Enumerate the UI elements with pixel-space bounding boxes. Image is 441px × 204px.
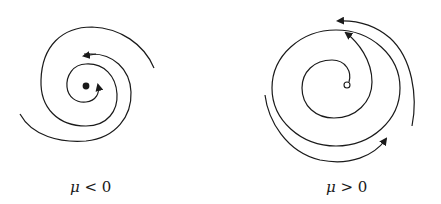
left-outer-trajectory-b bbox=[41, 27, 154, 126]
relation-text: < 0 bbox=[80, 178, 112, 196]
stable-fixed-point-icon bbox=[83, 83, 90, 90]
label-mu-negative: μ < 0 bbox=[70, 178, 111, 196]
right-inner-trajectory bbox=[302, 33, 372, 118]
phase-portrait-figure bbox=[0, 0, 441, 204]
limit-cycle bbox=[272, 30, 400, 146]
right-phase-portrait bbox=[265, 21, 414, 162]
left-inner-trajectory bbox=[67, 64, 99, 102]
left-phase-portrait bbox=[20, 27, 154, 141]
label-mu-positive: μ > 0 bbox=[326, 178, 367, 196]
mu-symbol: μ bbox=[70, 178, 80, 196]
relation-text: > 0 bbox=[336, 178, 368, 196]
right-outer-trajectory-bottom bbox=[265, 95, 386, 162]
mu-symbol: μ bbox=[326, 178, 336, 196]
unstable-fixed-point-icon bbox=[344, 82, 350, 88]
